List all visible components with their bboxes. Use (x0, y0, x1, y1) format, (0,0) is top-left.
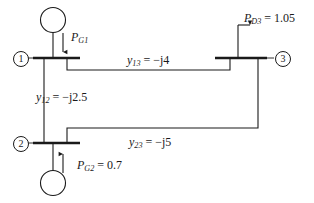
generator-2-label-subscript: G2 (84, 164, 94, 173)
generator-2-label-equals: = (94, 158, 107, 172)
transmission-line-2-3 (67, 58, 258, 143)
generator-1-label: PG1 (71, 31, 88, 43)
generator-1-label-subscript: G1 (78, 36, 88, 45)
bus-number-1: 1 (13, 51, 29, 67)
line-1-2-label-subscript: 12 (41, 96, 49, 105)
line-1-3-label-equals: = (140, 53, 153, 67)
load-3-label-value: 1.05 (274, 11, 295, 25)
line-1-3-label: y13 = −j4 (127, 54, 169, 66)
load-3-tap (238, 25, 250, 58)
line-1-3-label-value: −j4 (153, 53, 169, 67)
bus-number-3: 3 (275, 51, 291, 67)
line-1-2-label-equals: = (49, 90, 62, 104)
load-3-label-equals: = (261, 11, 274, 25)
load-3-label-subscript: D3 (251, 17, 261, 26)
generator-2-label-value: 0.7 (107, 158, 122, 172)
line-2-3-label-subscript: 23 (134, 141, 142, 150)
one-line-diagram: PG1 PG2 = 0.7 PD3 = 1.05 y13 = −j4 y12 =… (0, 0, 314, 203)
line-2-3-label-value: −j5 (155, 135, 171, 149)
bus-number-2: 2 (13, 136, 29, 152)
line-1-3-label-subscript: 13 (132, 59, 140, 68)
generator-1-symbol (41, 8, 66, 59)
line-1-2-label: y12 = −j2.5 (36, 91, 87, 103)
line-1-2-label-value: −j2.5 (62, 90, 87, 104)
line-2-3-label-equals: = (142, 135, 155, 149)
line-2-3-label: y23 = −j5 (129, 136, 171, 148)
load-3-label: PD3 = 1.05 (244, 12, 295, 24)
generator-2-symbol (41, 143, 66, 196)
generator-2-label: PG2 = 0.7 (77, 159, 122, 171)
